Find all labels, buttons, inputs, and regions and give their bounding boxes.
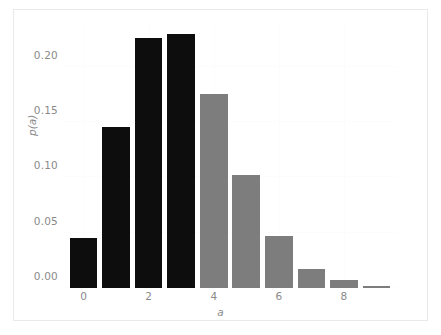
bar-6 <box>265 236 293 288</box>
bar-4 <box>200 94 228 288</box>
y-tick-label: 0.20 <box>34 49 58 61</box>
bar-2 <box>135 38 163 288</box>
y-axis-ticks: 0.000.050.100.150.20 <box>24 22 58 288</box>
bar-7 <box>298 269 326 288</box>
y-axis-label: p(a) <box>26 115 38 136</box>
x-tick-label: 6 <box>275 290 282 302</box>
x-axis-label: a <box>0 306 441 318</box>
bar-8 <box>330 280 358 288</box>
bar-1 <box>102 127 130 288</box>
y-tick-label: 0.10 <box>34 159 58 171</box>
bar-series <box>64 22 396 288</box>
x-tick-label: 0 <box>80 290 87 302</box>
x-tick-label: 2 <box>145 290 152 302</box>
x-axis-ticks: 02468 <box>64 290 396 306</box>
bar-9 <box>363 286 391 288</box>
y-tick-label: 0.05 <box>34 215 58 227</box>
chart-figure: 0.000.050.100.150.20 02468 p(a) a <box>0 0 441 335</box>
x-tick-label: 8 <box>341 290 348 302</box>
bar-5 <box>232 175 260 288</box>
y-tick-label: 0.00 <box>34 270 58 282</box>
bar-3 <box>167 34 195 288</box>
plot-area <box>64 22 396 288</box>
bar-0 <box>70 238 98 288</box>
x-tick-label: 4 <box>210 290 217 302</box>
